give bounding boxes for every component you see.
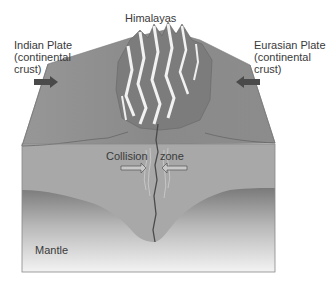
collision-label: Collision [106,150,148,162]
eurasian-plate-line1: Eurasian Plate [254,39,326,51]
indian-plate-line1: Indian Plate [14,39,72,51]
mantle-label: Mantle [35,244,68,256]
indian-plate-label: Indian Plate (continental crust) [14,39,72,75]
indian-plate-line2: (continental [14,51,72,63]
zone-label: zone [160,150,184,162]
eurasian-plate-label: Eurasian Plate (continental crust) [254,39,326,75]
eurasian-plate-line3: crust) [254,63,326,75]
himalayas-label: Himalayas [125,12,176,24]
indian-plate-line3: crust) [14,63,72,75]
eurasian-plate-line2: (continental [254,51,326,63]
